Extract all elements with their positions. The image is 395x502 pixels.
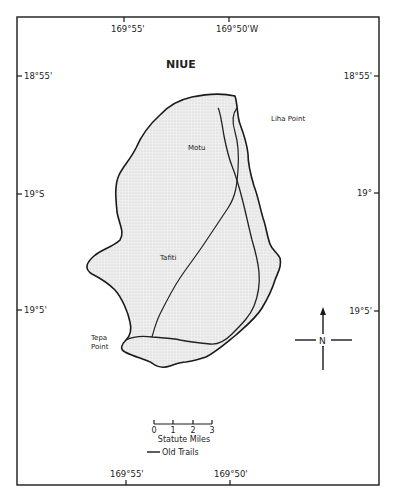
lon-label-bottom-2: 169°50' (214, 469, 248, 479)
lon-label-top-2: 169°50'W (216, 24, 259, 34)
scale-tick-0: 0 (151, 426, 156, 435)
place-label-tepa-point-line1: Tepa (90, 334, 107, 342)
lat-label-left-3: 19°5' (24, 305, 47, 315)
scale-tick-3: 3 (209, 426, 214, 435)
legend-label-old-trails: Old Trails (162, 448, 199, 457)
scale-tick-1: 1 (170, 426, 175, 435)
map-title: NIUE (166, 58, 196, 71)
map-canvas: 169°55' 169°50'W 169°55' 169°50' 18°55' … (0, 0, 395, 502)
lat-label-right-1: 18°55' (344, 71, 372, 81)
compass-label-n: N (319, 336, 326, 346)
place-label-motu: Motu (188, 144, 206, 152)
lon-label-bottom-1: 169°55' (110, 469, 144, 479)
lat-label-left-1: 18°55' (24, 71, 52, 81)
scale-bar (154, 420, 212, 424)
lon-label-top-1: 169°55' (111, 24, 145, 34)
place-label-tepa-point-line2: Point (91, 343, 109, 351)
lat-label-right-3: 19°5' (349, 306, 372, 316)
place-label-liha-point: Liha Point (271, 115, 305, 123)
island-niue (87, 94, 281, 367)
place-label-tafiti: Tafiti (159, 254, 177, 262)
lat-label-right-2: 19° (357, 188, 372, 198)
scale-tick-2: 2 (190, 426, 195, 435)
scale-unit-label: Statute Miles (158, 435, 210, 444)
lat-label-left-2: 19°S (24, 189, 44, 199)
